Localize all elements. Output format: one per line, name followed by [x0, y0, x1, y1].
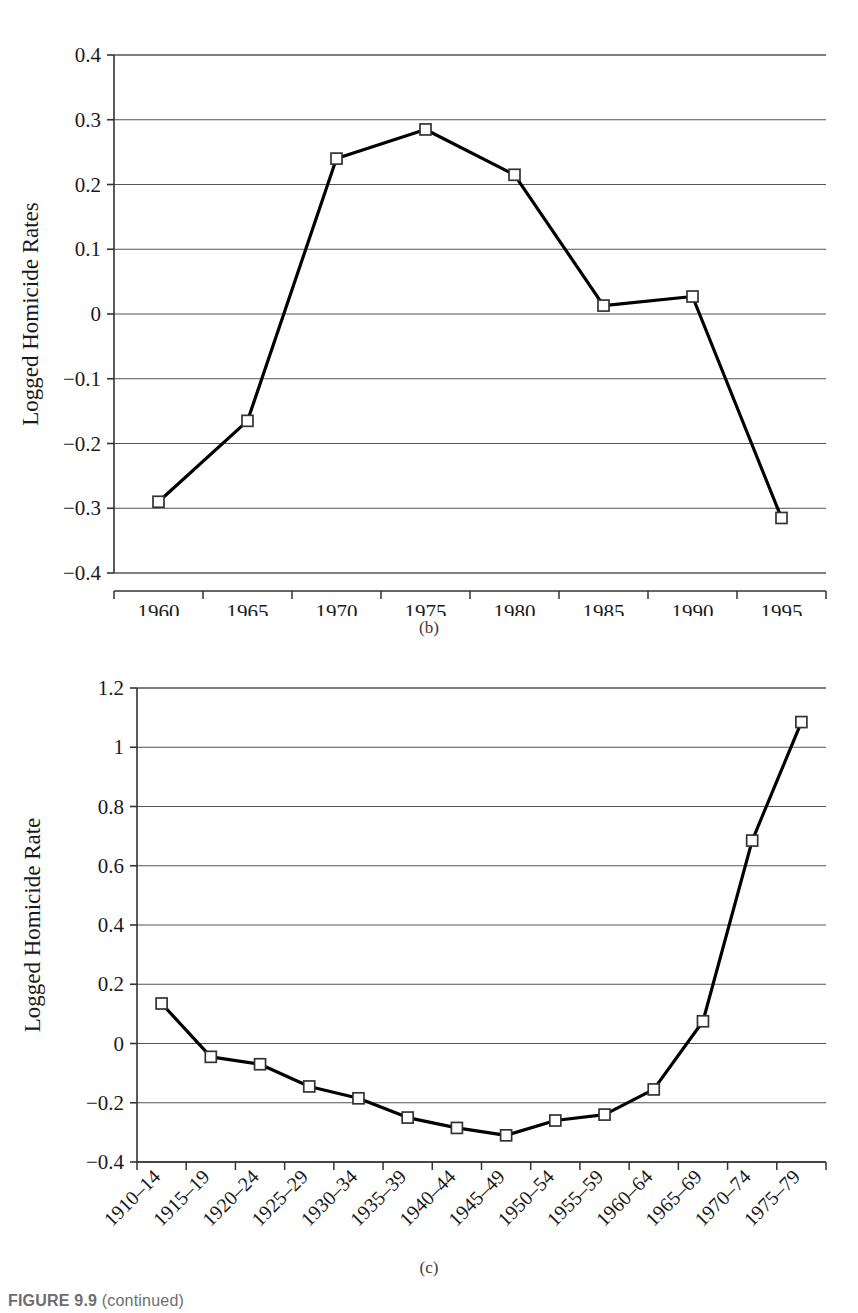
series-line — [159, 129, 782, 517]
data-point-marker — [205, 1051, 216, 1062]
data-point-marker — [501, 1130, 512, 1141]
chart-panel-b: −0.4−0.3−0.2−0.100.10.20.30.4Logged Homi… — [0, 16, 858, 616]
line-chart-b: −0.4−0.3−0.2−0.100.10.20.30.4Logged Homi… — [0, 16, 858, 616]
y-axis-tick-label: −0.4 — [63, 561, 102, 585]
data-point-marker — [255, 1059, 266, 1070]
data-point-marker — [451, 1122, 462, 1133]
panel-c-caption: (c) — [0, 1258, 858, 1278]
y-axis-tick-label: 0.6 — [98, 854, 124, 878]
y-axis-tick-label: 0.4 — [75, 43, 102, 67]
x-axis-tick-label: 1990 — [672, 600, 714, 616]
figure-caption-label: FIGURE 9.9 — [8, 1292, 97, 1309]
data-point-marker — [747, 835, 758, 846]
x-axis-tick-label: 1960 — [138, 600, 180, 616]
data-point-marker — [402, 1112, 413, 1123]
y-axis-tick-label: 0.2 — [75, 173, 101, 197]
y-axis-tick-label: 1.2 — [98, 676, 124, 700]
y-axis-tick-label: −0.3 — [63, 496, 101, 520]
y-axis-tick-label: 0.4 — [98, 913, 125, 937]
y-axis-tick-label: −0.2 — [86, 1091, 124, 1115]
x-axis-tick-label: 1965 — [227, 600, 269, 616]
data-point-marker — [304, 1081, 315, 1092]
y-axis-tick-label: 0 — [91, 302, 102, 326]
data-point-marker — [156, 998, 167, 1009]
chart-panel-c: −0.4−0.200.20.40.60.811.2Logged Homicide… — [0, 665, 858, 1265]
data-point-marker — [776, 512, 787, 523]
data-point-marker — [796, 717, 807, 728]
y-axis-tick-label: 0.2 — [98, 972, 124, 996]
x-axis-tick-label: 1970 — [316, 600, 358, 616]
x-axis-tick-label: 1975 — [405, 600, 447, 616]
y-axis-tick-label: 1 — [114, 735, 125, 759]
data-point-marker — [420, 124, 431, 135]
figure-caption: FIGURE 9.9 (continued) — [8, 1292, 184, 1313]
data-point-marker — [697, 1016, 708, 1027]
data-point-marker — [687, 291, 698, 302]
x-axis-tick-label: 1995 — [761, 600, 803, 616]
panel-b-caption: (b) — [0, 618, 858, 638]
line-chart-c: −0.4−0.200.20.40.60.811.2Logged Homicide… — [0, 665, 858, 1265]
data-point-marker — [242, 415, 253, 426]
data-point-marker — [648, 1084, 659, 1095]
series-line — [162, 722, 802, 1135]
y-axis-tick-label: −0.1 — [63, 367, 101, 391]
y-axis-tick-label: 0.8 — [98, 795, 124, 819]
figure-page: −0.4−0.3−0.2−0.100.10.20.30.4Logged Homi… — [0, 0, 858, 1313]
data-point-marker — [550, 1115, 561, 1126]
y-axis-title: Logged Homicide Rates — [18, 202, 43, 426]
y-axis-tick-label: 0.3 — [75, 108, 101, 132]
data-point-marker — [509, 169, 520, 180]
x-axis-tick-label: 1980 — [494, 600, 536, 616]
y-axis-tick-label: 0.1 — [75, 237, 101, 261]
figure-caption-text: (continued) — [102, 1292, 184, 1309]
y-axis-tick-label: −0.2 — [63, 432, 101, 456]
y-axis-tick-label: 0 — [114, 1032, 125, 1056]
data-point-marker — [331, 153, 342, 164]
data-point-marker — [353, 1093, 364, 1104]
y-axis-title: Logged Homicide Rate — [20, 818, 45, 1033]
x-axis-tick-label: 1985 — [583, 600, 625, 616]
data-point-marker — [153, 496, 164, 507]
data-point-marker — [598, 300, 609, 311]
data-point-marker — [599, 1109, 610, 1120]
y-axis-tick-label: −0.4 — [86, 1150, 125, 1174]
